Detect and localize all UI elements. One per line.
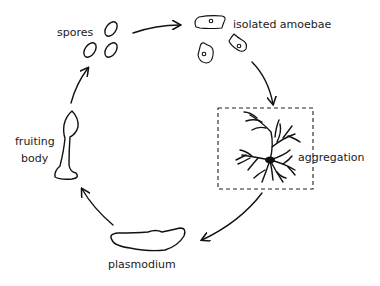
aggregation-frame [218, 108, 313, 189]
spores-label: spores [57, 26, 93, 39]
amoeba-nucleus-icon [202, 52, 206, 56]
amoeba-nucleus-icon [237, 44, 241, 48]
arrow-plasmodium-to-fruiting-body [82, 189, 113, 225]
aggregation-label: aggregation [298, 151, 365, 164]
spores-stage: spores [57, 20, 120, 60]
plasmodium-stage: plasmodium [108, 228, 185, 271]
arrow-aggregation-to-plasmodium [202, 193, 262, 240]
amoebae-stage: isolated amoebae [195, 16, 332, 63]
plasmodium-label: plasmodium [108, 258, 176, 271]
plasmodium-icon [111, 228, 185, 251]
spore-icon [102, 20, 119, 39]
aggregation-streams-icon [236, 112, 300, 182]
fruiting-body-icon [55, 111, 78, 179]
spore-icon [81, 41, 98, 60]
arrow-amoebae-to-aggregation [252, 62, 273, 104]
life-cycle-diagram: spores isolated amoebae [0, 0, 380, 286]
spore-icon [102, 41, 119, 60]
fruiting-label-line2: body [21, 152, 49, 165]
arrow-fruiting-body-to-spores [71, 68, 88, 103]
fruiting-body-stage: fruiting body [15, 111, 78, 179]
aggregation-stage: aggregation [218, 108, 365, 189]
arrow-spores-to-amoebae [133, 25, 180, 33]
amoeba-icon [229, 34, 247, 51]
amoeba-nucleus-icon [209, 19, 213, 23]
amoebae-label: isolated amoebae [233, 18, 332, 31]
fruiting-label-line1: fruiting [15, 135, 55, 148]
